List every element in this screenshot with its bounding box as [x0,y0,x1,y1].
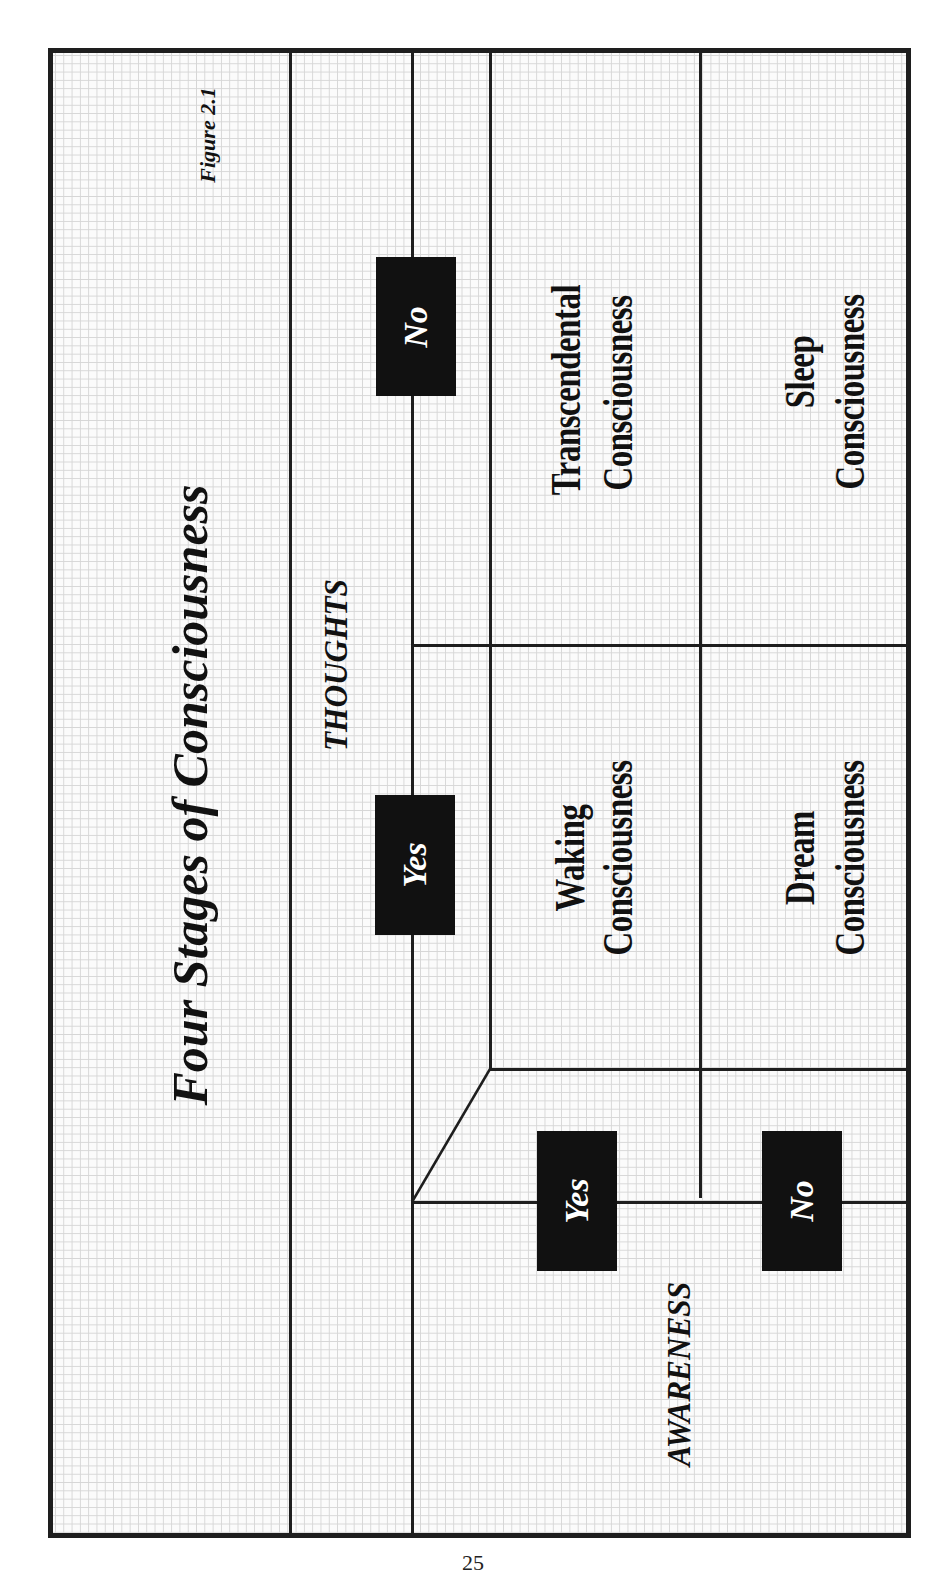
page-title: Four Stages of Consciousness [165,485,215,1106]
thoughts-yes-tag: Yes [375,795,455,935]
cell-sleep-line1: Sleep [779,336,821,409]
thoughts-no-label: No [399,306,433,348]
awareness-no-tag: No [762,1131,842,1271]
thoughts-yes-label: Yes [398,842,432,887]
thoughts-axis-label: THOUGHTS [319,579,353,751]
cell-dream-line2: Consciousness [829,760,871,955]
awareness-no-label: No [785,1180,819,1222]
cell-dream-line1: Dream [779,811,821,905]
page-number: 25 [462,1552,484,1574]
thoughts-no-tag: No [376,257,456,396]
awareness-axis-label: AWARENESS [662,1282,696,1466]
awareness-yes-label: Yes [560,1178,594,1223]
cell-transcendental-line1: Transcendental [545,285,587,496]
cell-waking-line2: Consciousness [597,760,639,955]
awareness-yes-tag: Yes [537,1131,617,1271]
cell-sleep-line2: Consciousness [829,294,871,489]
cell-transcendental-line2: Consciousness [597,295,639,490]
cell-waking-line1: Waking [549,805,591,912]
figure-label: Figure 2.1 [197,87,219,182]
